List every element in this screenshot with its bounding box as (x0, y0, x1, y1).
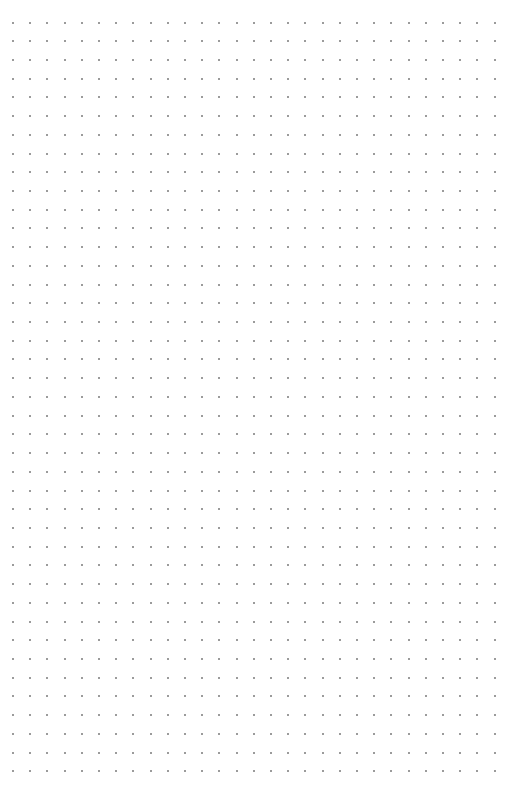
grid-dot (12, 527, 14, 529)
grid-dot (132, 546, 134, 548)
grid-dot (184, 115, 186, 117)
grid-dot (494, 302, 496, 304)
grid-dot (98, 639, 100, 641)
grid-dot (253, 471, 255, 473)
grid-dot (218, 527, 220, 529)
grid-dot (442, 358, 444, 360)
grid-dot (476, 508, 478, 510)
grid-dot (184, 602, 186, 604)
grid-dot (218, 415, 220, 417)
grid-dot (253, 115, 255, 117)
grid-dot (81, 770, 83, 772)
grid-dot (29, 733, 31, 735)
grid-dot (29, 265, 31, 267)
grid-dot (12, 714, 14, 716)
grid-dot (476, 265, 478, 267)
grid-dot (476, 471, 478, 473)
grid-dot (46, 40, 48, 42)
grid-dot (253, 40, 255, 42)
grid-dot (132, 733, 134, 735)
grid-dot (98, 770, 100, 772)
grid-dot (218, 227, 220, 229)
grid-dot (29, 22, 31, 24)
grid-dot (390, 302, 392, 304)
grid-dot (408, 96, 410, 98)
grid-dot (425, 340, 427, 342)
grid-dot (115, 321, 117, 323)
grid-dot (236, 770, 238, 772)
grid-dot (218, 358, 220, 360)
grid-dot (287, 358, 289, 360)
grid-dot (339, 171, 341, 173)
grid-dot (184, 321, 186, 323)
grid-dot (167, 564, 169, 566)
grid-dot (46, 190, 48, 192)
grid-dot (167, 677, 169, 679)
grid-dot (390, 508, 392, 510)
grid-dot (442, 752, 444, 754)
grid-dot (81, 433, 83, 435)
grid-dot (287, 22, 289, 24)
grid-dot (494, 340, 496, 342)
grid-dot (218, 209, 220, 211)
grid-dot (494, 321, 496, 323)
grid-dot (98, 246, 100, 248)
grid-dot (132, 134, 134, 136)
grid-dot (218, 340, 220, 342)
grid-dot (12, 733, 14, 735)
grid-dot (150, 752, 152, 754)
grid-dot (476, 752, 478, 754)
grid-dot (184, 546, 186, 548)
grid-dot (81, 639, 83, 641)
grid-dot (167, 527, 169, 529)
grid-dot (339, 490, 341, 492)
grid-dot (253, 78, 255, 80)
grid-dot (98, 134, 100, 136)
grid-dot (270, 265, 272, 267)
grid-dot (287, 115, 289, 117)
grid-dot (304, 508, 306, 510)
grid-dot (253, 265, 255, 267)
grid-dot (253, 583, 255, 585)
grid-dot (270, 695, 272, 697)
grid-dot (12, 583, 14, 585)
grid-dot (459, 602, 461, 604)
grid-dot (356, 471, 358, 473)
grid-dot (373, 490, 375, 492)
grid-dot (494, 546, 496, 548)
grid-dot (253, 302, 255, 304)
grid-dot (46, 377, 48, 379)
grid-dot (287, 546, 289, 548)
grid-dot (287, 621, 289, 623)
grid-dot (167, 452, 169, 454)
grid-dot (253, 209, 255, 211)
grid-dot (64, 340, 66, 342)
grid-dot (12, 695, 14, 697)
grid-dot (253, 602, 255, 604)
grid-dot (442, 171, 444, 173)
grid-dot (373, 658, 375, 660)
grid-dot (459, 171, 461, 173)
grid-dot (64, 695, 66, 697)
grid-dot (236, 677, 238, 679)
grid-dot (390, 770, 392, 772)
grid-dot (115, 527, 117, 529)
grid-dot (408, 284, 410, 286)
grid-dot (115, 22, 117, 24)
grid-dot (339, 508, 341, 510)
grid-dot (408, 564, 410, 566)
grid-dot (132, 227, 134, 229)
grid-dot (98, 415, 100, 417)
grid-dot (270, 284, 272, 286)
grid-dot (201, 452, 203, 454)
grid-dot (425, 602, 427, 604)
grid-dot (132, 40, 134, 42)
grid-dot (442, 22, 444, 24)
grid-dot (390, 752, 392, 754)
grid-dot (64, 227, 66, 229)
grid-dot (29, 546, 31, 548)
grid-dot (29, 246, 31, 248)
grid-dot (132, 171, 134, 173)
grid-dot (459, 265, 461, 267)
grid-dot (356, 209, 358, 211)
